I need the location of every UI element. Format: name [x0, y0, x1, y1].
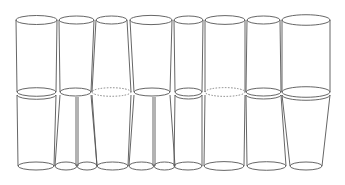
side-line-upper-left: [59, 20, 60, 92]
cylinder-1: [16, 15, 57, 170]
side-line-lower-right: [244, 95, 245, 166]
top-ellipse: [130, 15, 172, 24]
side-line-lower-left: [174, 95, 175, 166]
bottom-ellipse: [129, 162, 154, 170]
cylinder-4: [129, 15, 175, 170]
cylinder-2: [55, 16, 97, 170]
bottom-ellipse: [247, 162, 286, 171]
top-ellipse: [174, 16, 203, 24]
mid-ellipse: [282, 87, 330, 98]
side-line-upper-right: [56, 20, 57, 92]
top-ellipse: [205, 16, 245, 25]
bottom-ellipse: [97, 162, 128, 170]
cylinder-5: [174, 16, 203, 170]
top-ellipse: [96, 16, 127, 24]
mid-ellipse: [17, 88, 56, 97]
mid-ring-lower-edge: [17, 95, 56, 99]
side-line-upper-left: [16, 20, 17, 92]
bottom-ellipse: [55, 162, 77, 170]
side-line-upper-left: [174, 20, 175, 92]
cylinder-diagram: [0, 0, 345, 185]
top-ellipse: [247, 16, 280, 24]
cylinder-8: [282, 15, 330, 170]
mid-ellipse-dashed: [205, 88, 245, 97]
top-ellipse: [59, 16, 94, 24]
cylinder-6: [204, 16, 245, 171]
top-ellipse: [16, 15, 57, 24]
bottom-ellipse: [174, 162, 202, 170]
bottom-ellipse: [77, 162, 97, 170]
cylinder-7: [246, 16, 286, 170]
side-line-lower-right: [322, 95, 330, 166]
cylinder-3: [92, 16, 131, 170]
side-line-lower-left: [92, 95, 97, 166]
side-line-upper-right: [170, 20, 172, 92]
mid-ellipse-dashed: [92, 88, 131, 97]
mid-ellipse: [175, 88, 202, 96]
side-line-upper-right: [202, 20, 203, 92]
bottom-ellipse: [204, 162, 244, 171]
side-line-upper-left: [246, 20, 247, 92]
mid-ellipse: [134, 88, 170, 96]
bottom-ellipse: [290, 162, 322, 170]
mid-ellipse: [246, 88, 281, 96]
bottom-ellipse: [154, 162, 175, 170]
bottom-ellipse: [18, 162, 54, 170]
side-line-lower-left: [204, 95, 205, 166]
side-line-lower-left: [17, 95, 18, 166]
side-line-lower-left: [246, 95, 247, 166]
mid-ellipse: [60, 88, 91, 96]
top-ellipse: [282, 15, 330, 26]
side-line-upper-right: [280, 20, 281, 92]
